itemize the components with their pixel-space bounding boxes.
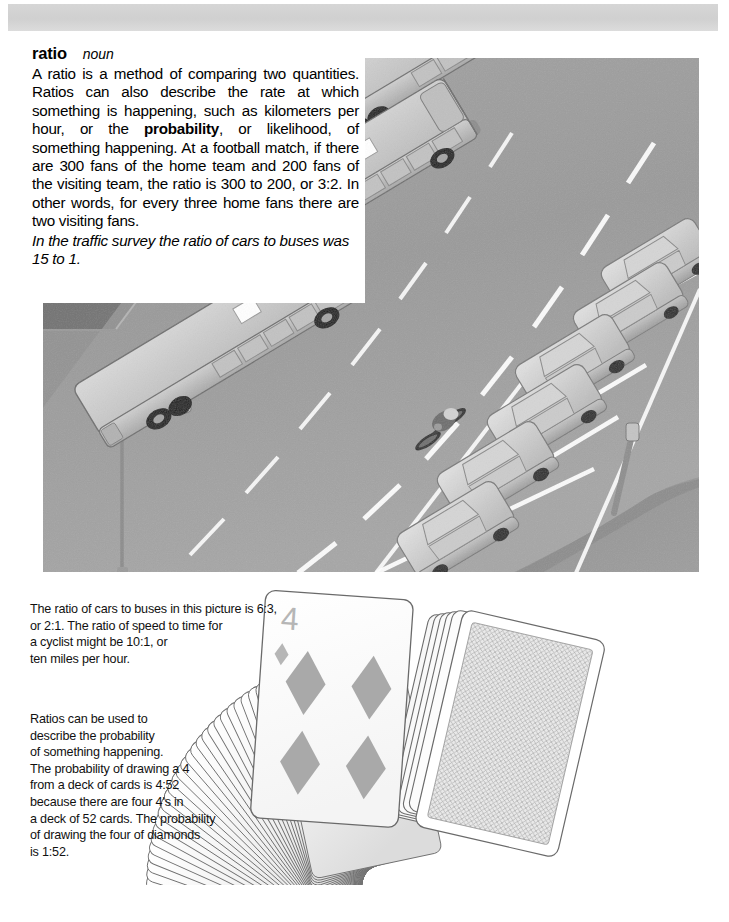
probability-cards-caption: Ratios can be used todescribe the probab…	[30, 711, 290, 860]
caption-line: of something happening.	[30, 744, 290, 761]
definition-bold-term: probability	[144, 120, 219, 137]
caption-line: is 1:52.	[30, 844, 290, 861]
part-of-speech: noun	[83, 46, 114, 62]
caption-line: a cyclist might be 10:1, or	[30, 634, 360, 651]
caption-line: describe the probability	[30, 728, 290, 745]
caption-line: Ratios can be used to	[30, 711, 290, 728]
caption-line: or 2:1. The ratio of speed to time for	[30, 618, 360, 635]
caption-line: a deck of 52 cards. The probability	[30, 811, 290, 828]
traffic-ratio-caption: The ratio of cars to buses in this pictu…	[30, 601, 360, 667]
page-header-bar	[8, 4, 718, 31]
definition-panel: rationoun A ratio is a method of compari…	[22, 40, 365, 303]
caption-line: The ratio of cars to buses in this pictu…	[30, 601, 360, 618]
caption-line: The probability of drawing a 4	[30, 761, 290, 778]
definition-text: A ratio is a method of comparing two qua…	[32, 65, 359, 231]
caption-line: of drawing the four of diamonds	[30, 827, 290, 844]
example-sentence: In the traffic survey the ratio of cars …	[32, 232, 359, 269]
page-title: ratio	[32, 44, 67, 62]
caption-line: from a deck of cards is 4:52	[30, 777, 290, 794]
caption-line: because there are four 4's in	[30, 794, 290, 811]
headword-line: rationoun	[32, 44, 359, 64]
caption-line: ten miles per hour.	[30, 651, 360, 668]
